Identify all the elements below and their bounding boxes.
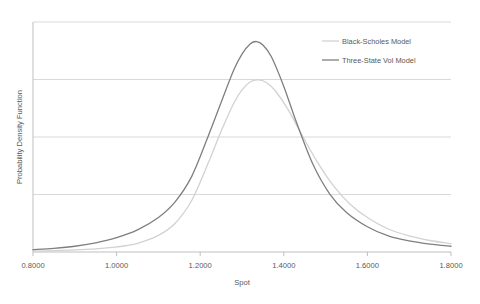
- x-tick-label-2: 1.2000: [189, 261, 212, 270]
- x-tick-label-3: 1.4000: [272, 261, 295, 270]
- x-axis-ticks: [33, 252, 451, 256]
- x-tick-labels: 0.8000 1.0000 1.2000 1.4000 1.6000 1.800…: [21, 261, 462, 270]
- chart-figure: 0.8000 1.0000 1.2000 1.4000 1.6000 1.800…: [0, 0, 480, 304]
- pdf-comparison-chart: 0.8000 1.0000 1.2000 1.4000 1.6000 1.800…: [0, 0, 480, 304]
- x-tick-label-0: 0.8000: [21, 261, 44, 270]
- x-tick-label-4: 1.6000: [356, 261, 379, 270]
- legend-label-three-state-vol: Three-State Vol Model: [342, 56, 416, 65]
- x-axis-title: Spot: [234, 278, 251, 287]
- x-tick-label-5: 1.8000: [439, 261, 462, 270]
- y-axis-title: Probability Density Function: [15, 90, 24, 184]
- x-tick-label-1: 1.0000: [105, 261, 128, 270]
- legend-label-black-scholes: Black-Scholes Model: [342, 37, 411, 46]
